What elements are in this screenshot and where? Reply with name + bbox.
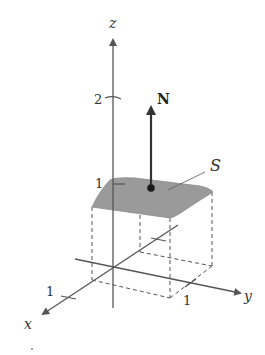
stray-mark bbox=[31, 348, 33, 350]
axes bbox=[43, 40, 240, 314]
x-axis bbox=[43, 225, 178, 314]
z-axis-label: z bbox=[108, 15, 117, 31]
y-axis-label: y bbox=[243, 288, 253, 304]
point-on-surface bbox=[147, 184, 155, 192]
z-tick-1-label: 1 bbox=[95, 176, 103, 191]
normal-vector-label: N bbox=[157, 91, 170, 107]
z-tick-2-label: 2 bbox=[94, 92, 102, 107]
x-tick-1-label: 1 bbox=[46, 284, 54, 299]
surface-s bbox=[92, 178, 213, 218]
surface-normal-diagram: z y x 2 1 1 1 N S bbox=[0, 0, 265, 355]
y-tick-1-label: 1 bbox=[183, 293, 191, 308]
surface-label: S bbox=[210, 156, 221, 175]
x-axis-label: x bbox=[24, 316, 32, 332]
